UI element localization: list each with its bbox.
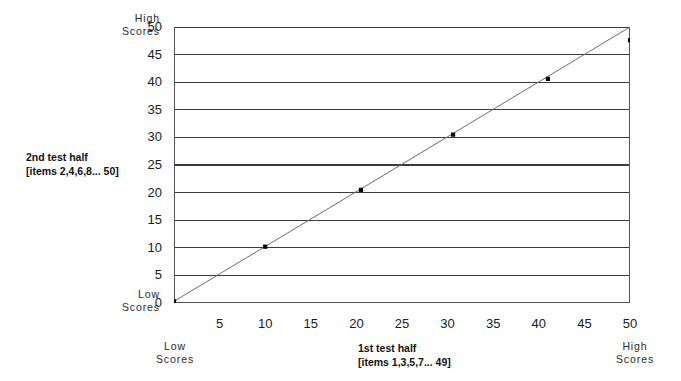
x-tick-label-40: 40: [526, 317, 552, 330]
y-axis-title: 2nd test half [items 2,4,6,8... 50]: [26, 150, 119, 178]
x-tick-label-15: 15: [298, 317, 324, 330]
data-points: [174, 38, 630, 303]
y-tick-label-40: 40: [136, 75, 162, 88]
y-tick-label-50: 50: [136, 20, 162, 33]
x-tick-label-45: 45: [571, 317, 597, 330]
y-tick-label-35: 35: [136, 103, 162, 116]
plot-area: [174, 27, 630, 303]
data-point: [546, 77, 550, 81]
chart-figure: High Scores Low Scores Low Scores High S…: [0, 0, 681, 381]
data-point: [174, 299, 176, 303]
regression-line: [174, 27, 630, 301]
x-tick-label-35: 35: [480, 317, 506, 330]
y-tick-label-20: 20: [136, 186, 162, 199]
x-tick-label-10: 10: [252, 317, 278, 330]
gridlines: [174, 27, 630, 275]
y-tick-label-5: 5: [136, 268, 162, 281]
y-tick-label-45: 45: [136, 48, 162, 61]
x-tick-label-25: 25: [389, 317, 415, 330]
x-axis-title-line2: [items 1,3,5,7... 49]: [358, 355, 451, 369]
y-tick-label-15: 15: [136, 213, 162, 226]
data-point: [451, 133, 455, 137]
y-tick-label-10: 10: [136, 241, 162, 254]
x-tick-label-30: 30: [435, 317, 461, 330]
x-tick-label-5: 5: [207, 317, 233, 330]
x-axis-high-label: High Scores: [600, 340, 670, 366]
data-point: [263, 245, 267, 249]
data-point: [628, 38, 630, 42]
y-axis-title-line2: [items 2,4,6,8... 50]: [26, 164, 119, 178]
y-tick-label-0: 0: [136, 296, 162, 309]
trend-line: [174, 27, 630, 301]
x-axis-low-label: Low Scores: [140, 340, 210, 366]
x-axis-title: 1st test half [items 1,3,5,7... 49]: [358, 341, 451, 369]
plot-canvas: [174, 27, 630, 303]
y-tick-label-30: 30: [136, 130, 162, 143]
x-axis-title-line1: 1st test half: [358, 342, 416, 354]
x-tick-label-50: 50: [617, 317, 643, 330]
y-tick-label-25: 25: [136, 158, 162, 171]
x-tick-label-20: 20: [343, 317, 369, 330]
data-point: [359, 188, 363, 192]
y-axis-title-line1: 2nd test half: [26, 151, 88, 163]
